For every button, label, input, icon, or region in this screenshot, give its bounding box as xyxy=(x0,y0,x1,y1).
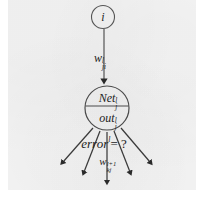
error-equals: = ? xyxy=(110,136,126,151)
out-base: out xyxy=(99,111,114,125)
net-cell-label: Netlj xyxy=(99,92,116,104)
out-subscript: j xyxy=(115,124,117,131)
outgoing-weight-label: wl+1kj xyxy=(99,156,106,167)
incoming-weight-label: wlji xyxy=(94,52,102,64)
out-cell-label: outlj xyxy=(99,112,114,124)
incoming-weight-subscript: ji xyxy=(102,64,106,71)
net-base: Net xyxy=(99,91,116,105)
incoming-weight-base: w xyxy=(94,51,102,65)
error-base: error xyxy=(81,136,108,151)
outgoing-weight-base: w xyxy=(99,155,106,167)
error-query-label: errorl= ? xyxy=(81,136,127,149)
outgoing-weight-subscript: kj xyxy=(107,166,112,173)
figure-root: i wlji Netlj outlj errorl= ? wl+1kj xyxy=(0,0,206,208)
upper-node-label: i xyxy=(101,11,104,23)
net-subscript: j xyxy=(115,104,117,111)
